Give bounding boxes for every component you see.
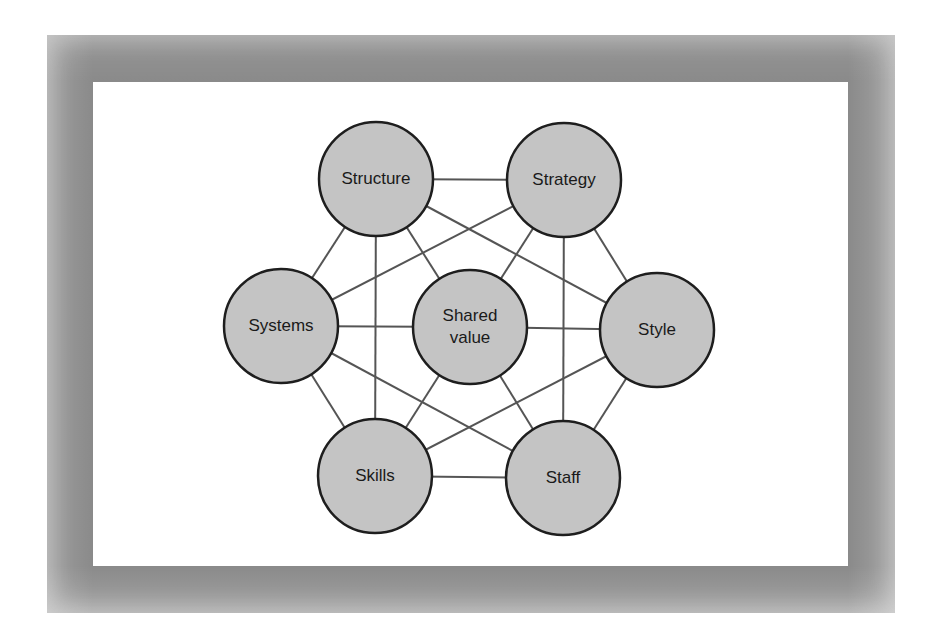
node-label: Staff xyxy=(546,468,581,487)
node-strategy: Strategy xyxy=(507,123,621,237)
node-staff: Staff xyxy=(506,421,620,535)
node-label: Style xyxy=(638,320,676,339)
node-structure: Structure xyxy=(319,122,433,236)
node-style: Style xyxy=(600,273,714,387)
node-skills: Skills xyxy=(318,419,432,533)
node-label: Shared xyxy=(443,306,498,325)
node-label: Strategy xyxy=(532,170,596,189)
node-label: value xyxy=(450,328,491,347)
node-label: Systems xyxy=(248,316,313,335)
element-nodes: StructureStrategySystemsSharedvalueStyle… xyxy=(224,122,714,535)
node-shared: Sharedvalue xyxy=(413,270,527,384)
node-circle xyxy=(413,270,527,384)
mckinsey-7s-diagram: StructureStrategySystemsSharedvalueStyle… xyxy=(0,0,929,633)
node-label: Structure xyxy=(342,169,411,188)
node-label: Skills xyxy=(355,466,395,485)
node-systems: Systems xyxy=(224,269,338,383)
